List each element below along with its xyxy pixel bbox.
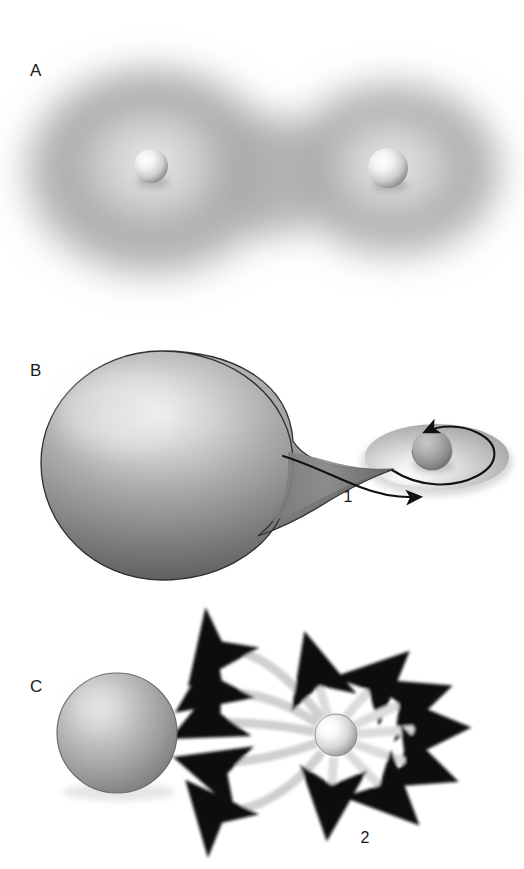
companion-star-highlight	[70, 686, 122, 726]
figure-root: A B 1	[0, 0, 524, 869]
right-stellar-core	[368, 148, 408, 188]
ray-outward-down	[328, 757, 334, 828]
panel-a-label: A	[30, 61, 42, 80]
emitting-compact-core	[315, 714, 357, 756]
binary-star-diagram: A B 1	[0, 0, 524, 869]
panel-c-callout-2: 2	[361, 829, 370, 846]
common-envelope-bridge	[212, 114, 332, 238]
left-stellar-core	[134, 149, 168, 183]
emitting-core-highlight	[319, 720, 337, 736]
donor-star-highlight	[56, 370, 180, 450]
panel-c-label: C	[30, 677, 42, 696]
panel-b-label: B	[30, 361, 41, 380]
panel-b-callout-1: 1	[344, 488, 353, 505]
emitting-core-assembly	[315, 714, 357, 756]
companion-star-sphere	[57, 673, 177, 793]
